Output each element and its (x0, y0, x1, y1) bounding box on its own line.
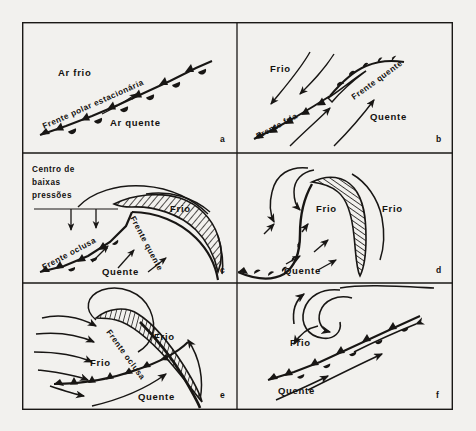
panel-d-warm-label: Quente (284, 265, 321, 276)
panel-c-warm-label: Quente (102, 266, 139, 277)
panel-d-cold-left-label: Frio (316, 203, 337, 214)
panel-a: Ar frio Ar quente Frente polar estacioná… (40, 61, 225, 144)
panel-c-occluded-front-label: Frente oclusa (41, 236, 98, 272)
panel-c-low-center-line3: pressões (32, 191, 72, 200)
occluded-sector-hatch (114, 195, 221, 272)
panel-c-letter: c (220, 265, 225, 275)
panel-f-letter: f (436, 390, 439, 400)
free-arrow-1 (264, 224, 274, 234)
panel-d-cold-right-label: Frio (382, 203, 403, 214)
panel-c: Centro de baixas pressões Frio Quente Fr… (32, 165, 225, 280)
panel-c-low-center-line1: Centro de (32, 165, 75, 174)
panel-d-letter: d (436, 265, 441, 275)
panel-f: Frio Quente f (268, 286, 439, 400)
panel-e-letter: e (220, 390, 225, 400)
panel-f-warm-label: Quente (278, 385, 315, 396)
panel-c-warm-front-label: Frente quente (128, 215, 164, 273)
cold-streamline-1 (271, 52, 310, 104)
panel-b-letter: b (436, 134, 441, 144)
frontal-cyclone-figure: Ar frio Ar quente Frente polar estacioná… (22, 22, 453, 410)
panel-b-warm-front-label: Frente quente (350, 59, 404, 102)
panel-c-cold-label: Frio (170, 203, 191, 214)
warm-streamline-2 (334, 100, 374, 146)
occluded-spiral-hatch (96, 309, 202, 402)
panel-b-cold-front-label: Frente fria (255, 111, 299, 140)
inflow-arrow-4 (38, 370, 88, 380)
inflow-arrow-3 (34, 352, 92, 362)
front-parallel-flow-cold (354, 324, 416, 352)
panel-b-warm-label: Quente (370, 111, 407, 122)
residual-spiral (303, 290, 340, 339)
residual-spiral-inner (319, 297, 352, 332)
panel-d: Frio Frio Quente d (238, 168, 441, 279)
free-arrow-3 (314, 240, 328, 252)
panel-e-warm-label: Quente (138, 391, 175, 402)
panel-a-cold-air-label: Ar frio (58, 67, 91, 78)
inflow-arrow-1 (42, 316, 96, 326)
panel-c-low-center-line2: baixas (32, 178, 61, 187)
upper-return-flow (340, 286, 434, 288)
panel-a-warm-air-label: Ar quente (110, 117, 161, 128)
occluded-tongue-hatch (312, 177, 366, 276)
stationary-front-f (268, 316, 420, 380)
panel-f-cold-label: Frio (290, 337, 311, 348)
panel-a-letter: a (220, 134, 225, 144)
inflow-arrow-5 (50, 386, 84, 396)
inflow-arrow-2 (36, 333, 94, 342)
panel-b-cold-label: Frio (270, 63, 291, 74)
panel-b: Frio Quente Frente quente Frente fria b (254, 52, 441, 146)
panel-e-cold-upper-label: Frio (154, 331, 175, 342)
panel-e: Frio Frio Frente oclusa Quente e (34, 288, 225, 408)
free-arrow-2 (302, 224, 308, 232)
front-parallel-flow-warm (308, 354, 382, 390)
panel-e-cold-lower-label: Frio (90, 357, 111, 368)
